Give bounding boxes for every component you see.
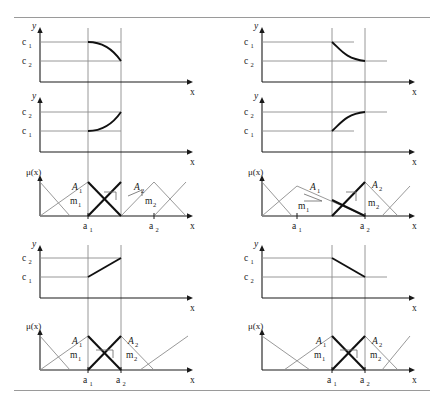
tick-label-c2-sub: 2 <box>251 112 254 119</box>
y-axis-arrow <box>259 97 264 103</box>
tick-label-c2: c <box>22 253 26 263</box>
x-axis-arrow <box>409 79 415 84</box>
x-axis-label: x <box>190 221 195 231</box>
output-curve <box>332 258 365 277</box>
y-axis-label: y <box>31 239 37 249</box>
label-m2: m <box>370 350 378 360</box>
mu-axis-label: μ(x) <box>248 167 263 177</box>
label-A2: A <box>371 180 378 190</box>
y-axis-label: y <box>253 91 259 101</box>
label-a2-sub: 2 <box>156 226 159 233</box>
x-axis-arrow <box>187 79 193 84</box>
label-A2-sub: 2 <box>379 341 382 348</box>
panel-bottom-left: y c 2 c 1 x μ(x) A 1 A 2 m 1 m 2 a 1 a 2… <box>0 240 222 390</box>
tick-label-c2-sub: 2 <box>29 61 32 68</box>
label-m1: m <box>70 196 78 206</box>
fuzzy-set-A2 <box>121 182 186 216</box>
label-A1-sub: 1 <box>317 187 320 194</box>
y-axis-arrow <box>259 27 264 33</box>
tick-label-c1-sub: 1 <box>29 42 32 49</box>
tick-label-c1-sub: 1 <box>251 258 254 265</box>
bottom-divider-rule <box>14 390 430 391</box>
label-A2: A <box>371 336 378 346</box>
slope-marker-m1 <box>304 194 322 201</box>
output-curve <box>88 112 121 131</box>
output-curve <box>88 42 121 61</box>
x-axis-label: x <box>190 157 195 167</box>
tick-label-c1-sub: 1 <box>251 131 254 138</box>
tick-label-c1-sub: 1 <box>29 277 32 284</box>
y-axis-label: y <box>253 21 259 31</box>
subplot-output-curve-1: y c 1 c 2 x <box>244 239 417 313</box>
label-a1: a <box>327 375 332 385</box>
tick-label-c2: c <box>244 56 248 66</box>
label-m2: m <box>145 196 153 206</box>
output-curve <box>332 112 365 131</box>
tick-label-c1: c <box>22 37 26 47</box>
label-A2-sub: 2 <box>141 187 144 194</box>
tick-label-c2: c <box>244 107 248 117</box>
label-a2: a <box>360 375 365 385</box>
tick-label-c2-sub: 2 <box>251 61 254 68</box>
subplot-output-curve-1: y c 1 c 2 x <box>244 21 417 97</box>
label-a2-sub: 2 <box>367 226 370 233</box>
tick-label-c2-sub: 2 <box>29 258 32 265</box>
x-axis-label: x <box>412 87 417 97</box>
label-A1: A <box>71 182 78 192</box>
tick-label-c1: c <box>244 37 248 47</box>
y-axis-label: y <box>31 21 37 31</box>
subplot-output-curve-2: y c 2 c 1 x <box>244 91 417 167</box>
top-divider-rule <box>14 17 430 18</box>
panel-bottom-right: y c 1 c 2 x μ(x) A 1 A 2 m 1 m 2 a 1 a 2… <box>222 240 444 390</box>
x-axis-arrow <box>409 213 415 218</box>
label-m1-sub: 1 <box>78 201 81 208</box>
x-axis-arrow <box>187 295 193 300</box>
x-axis-label: x <box>190 87 195 97</box>
left-shoulder-set <box>262 182 292 216</box>
label-m2-sub: 2 <box>376 203 379 210</box>
x-axis-label: x <box>412 221 417 231</box>
label-m2: m <box>368 198 376 208</box>
tick-label-c2: c <box>244 272 248 282</box>
label-A2: A <box>127 336 134 346</box>
label-a1-sub: 1 <box>90 380 93 387</box>
y-axis-arrow <box>37 27 42 33</box>
tick-label-c1-sub: 1 <box>29 131 32 138</box>
subplot-membership: μ(x) A 1 A 2 m 1 m 2 a 1 a 2 x <box>248 167 417 233</box>
label-A1-sub: 1 <box>79 341 82 348</box>
left-shoulder-set <box>262 336 310 370</box>
tick-label-c1: c <box>22 126 26 136</box>
label-A1-sub: 1 <box>79 187 82 194</box>
label-a2-sub: 2 <box>123 380 126 387</box>
subplot-output-curve-1: y c 2 c 1 x <box>22 239 195 313</box>
left-shoulder-set <box>40 336 70 370</box>
tick-label-c2-sub: 2 <box>29 112 32 119</box>
subplot-output-curve-1: y c 1 c 2 x <box>22 21 195 97</box>
y-axis-arrow <box>259 245 264 251</box>
tick-label-c1: c <box>244 253 248 263</box>
x-axis-arrow <box>409 367 415 372</box>
x-axis-arrow <box>187 213 193 218</box>
label-m1-sub: 1 <box>78 355 81 362</box>
label-a1: a <box>292 221 297 231</box>
label-A2-sub: 2 <box>135 341 138 348</box>
subplot-membership: μ(x) A 1 A 2 m 1 m 2 a 1 a 2 x <box>26 321 195 387</box>
right-shoulder-set <box>382 336 410 370</box>
panel-top-left: y c 1 c 2 x y c 2 c 1 x μ(x <box>0 20 222 235</box>
label-a2: a <box>360 221 365 231</box>
label-a1-sub: 1 <box>299 226 302 233</box>
label-A1: A <box>309 182 316 192</box>
panel-top-right: y c 1 c 2 x y c 2 c 1 x μ(x) <box>222 20 444 235</box>
output-curve <box>332 42 365 61</box>
y-axis-arrow <box>37 97 42 103</box>
label-m2-sub: 2 <box>134 355 137 362</box>
left-shoulder-set <box>40 182 70 216</box>
label-m2-sub: 2 <box>153 201 156 208</box>
x-axis-label: x <box>412 303 417 313</box>
label-a1: a <box>83 375 88 385</box>
label-m1: m <box>70 350 78 360</box>
label-a1-sub: 1 <box>334 380 337 387</box>
mu-axis-label: μ(x) <box>248 321 263 331</box>
x-axis-label: x <box>412 375 417 385</box>
label-a2-sub: 2 <box>367 380 370 387</box>
